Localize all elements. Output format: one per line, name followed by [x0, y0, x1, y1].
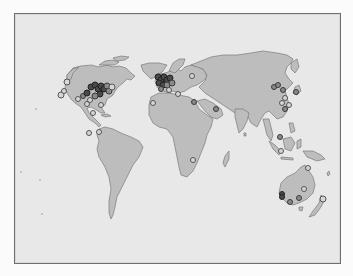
philippines [289, 123, 295, 133]
speck-dot [39, 179, 41, 181]
continents [65, 51, 330, 219]
location-marker-new-guinea[interactable] [306, 166, 311, 171]
tasmania [299, 207, 303, 211]
location-marker-north-america-east[interactable] [109, 84, 115, 90]
location-marker-east-asia[interactable] [283, 107, 288, 112]
location-marker-africa-south[interactable] [191, 158, 196, 163]
location-marker-middle-east[interactable] [192, 100, 197, 105]
location-marker-arabia[interactable] [214, 107, 219, 112]
borneo [283, 137, 295, 151]
location-marker-australia-west[interactable] [280, 195, 285, 200]
location-marker-caribbean[interactable] [91, 111, 96, 116]
location-marker-australia-south[interactable] [288, 200, 293, 205]
location-marker-north-america-south[interactable] [99, 103, 104, 108]
madagascar [223, 151, 229, 167]
sulawesi [297, 139, 301, 149]
specks-layer [20, 108, 43, 215]
location-marker-south-america[interactable] [87, 131, 92, 136]
location-marker-australia-east[interactable] [302, 187, 307, 192]
map-stage [0, 0, 353, 276]
south-america [97, 127, 143, 219]
new-guinea [303, 151, 325, 161]
speck-dot [41, 213, 43, 215]
location-marker-north-america-east[interactable] [92, 93, 98, 99]
location-marker-east-asia[interactable] [287, 103, 292, 108]
location-marker-north-america-south[interactable] [85, 102, 90, 107]
location-marker-east-asia[interactable] [276, 83, 281, 88]
sri-lanka [244, 133, 246, 136]
southeast-asia [263, 119, 273, 141]
arctic-islands-2 [113, 56, 129, 61]
location-marker-east-asia[interactable] [283, 96, 288, 101]
location-marker-japan[interactable] [294, 90, 299, 95]
location-marker-north-america-west[interactable] [62, 89, 67, 94]
location-marker-north-america-west[interactable] [76, 97, 81, 102]
location-marker-europe-south[interactable] [167, 88, 172, 93]
speck-dot [35, 108, 37, 110]
location-marker-europe-south[interactable] [159, 87, 164, 92]
location-marker-mediterranean[interactable] [176, 92, 181, 97]
location-marker-europe-east[interactable] [190, 74, 195, 79]
world-map-frame [14, 13, 341, 264]
java [281, 157, 293, 160]
location-marker-north-america-central[interactable] [84, 90, 90, 96]
speck-dot [20, 171, 22, 173]
location-marker-north-america-west[interactable] [64, 79, 70, 85]
arctic-islands [99, 60, 119, 65]
pacific-islands [327, 171, 330, 176]
india [235, 109, 249, 133]
location-marker-central-america[interactable] [97, 130, 102, 135]
location-marker-europe-central[interactable] [169, 80, 175, 86]
location-marker-east-asia[interactable] [281, 88, 286, 93]
location-marker-new-zealand[interactable] [320, 196, 326, 202]
location-marker-australia-south[interactable] [297, 196, 302, 201]
location-marker-east-asia[interactable] [280, 101, 285, 106]
caribbean-islands [101, 114, 111, 117]
location-marker-southeast-asia[interactable] [279, 149, 284, 154]
location-marker-africa-west[interactable] [151, 101, 156, 106]
location-marker-southeast-asia[interactable] [278, 135, 283, 140]
world-map[interactable] [15, 14, 340, 263]
